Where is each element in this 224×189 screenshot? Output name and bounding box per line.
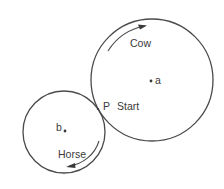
- point-p-label: P: [103, 100, 110, 112]
- horse-label: Horse: [58, 148, 86, 160]
- tangent-circles-diagram: Cow a P Start b Horse: [0, 0, 224, 189]
- start-label: Start: [117, 100, 139, 112]
- point-p-dot: [97, 108, 99, 110]
- cow-label: Cow: [130, 37, 151, 49]
- center-a-label: a: [155, 74, 161, 86]
- center-b-dot: [64, 130, 67, 133]
- horse-track-circle: [23, 91, 105, 173]
- cow-track-circle: [91, 19, 213, 141]
- center-b-label: b: [56, 121, 62, 133]
- center-a-dot: [150, 80, 153, 83]
